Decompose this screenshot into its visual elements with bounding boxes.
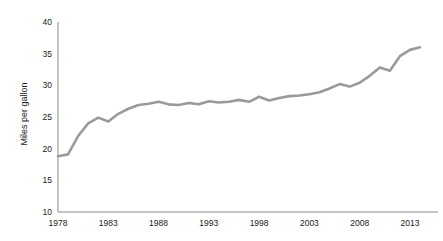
x-axis-tick-labels: 19781983198819931998200320082013 — [49, 218, 420, 228]
x-tick-label: 1998 — [250, 218, 269, 228]
y-tick-label: 15 — [43, 175, 53, 185]
y-tick-label: 25 — [43, 112, 53, 122]
y-tick-label: 20 — [43, 144, 53, 154]
x-tick-label: 2003 — [300, 218, 319, 228]
x-tick-label: 1993 — [199, 218, 218, 228]
chart-container: Miles per gallon 10152025303540 19781983… — [0, 0, 443, 241]
y-tick-label: 30 — [43, 80, 53, 90]
y-tick-label: 35 — [43, 49, 53, 59]
y-axis-label: Miles per gallon — [19, 82, 29, 145]
x-tick-label: 1983 — [99, 218, 118, 228]
y-tick-label: 10 — [43, 207, 53, 217]
x-tick-label: 2008 — [350, 218, 369, 228]
y-tick-label: 40 — [43, 17, 53, 27]
x-tick-label: 2013 — [400, 218, 419, 228]
x-tick-label: 1978 — [49, 218, 68, 228]
series-line-miles-per-gallon — [58, 47, 420, 156]
y-axis-tick-labels: 10152025303540 — [43, 17, 53, 217]
line-chart: Miles per gallon 10152025303540 19781983… — [0, 0, 443, 241]
x-tick-label: 1988 — [149, 218, 168, 228]
